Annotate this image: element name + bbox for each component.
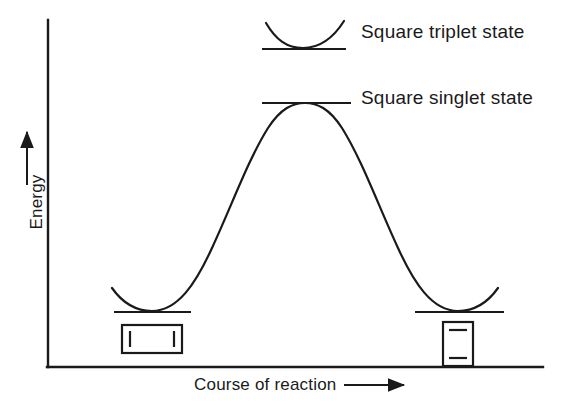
left-structure-icon bbox=[122, 325, 182, 353]
axis-lines bbox=[47, 20, 543, 367]
legend-label-square-triplet-state: Square triplet state bbox=[361, 21, 524, 43]
reaction-path-curve bbox=[112, 103, 498, 311]
figure-canvas: Square triplet state Square singlet stat… bbox=[0, 0, 561, 408]
legend-label-square-singlet-state: Square singlet state bbox=[361, 87, 533, 109]
legend-triplet-marker bbox=[262, 21, 346, 49]
energy-level-lines bbox=[114, 103, 504, 312]
right-structure-icon bbox=[443, 322, 473, 366]
energy-diagram-svg bbox=[0, 0, 561, 408]
x-axis-label: Course of reaction bbox=[194, 375, 337, 395]
y-axis-label: Energy bbox=[27, 157, 47, 247]
